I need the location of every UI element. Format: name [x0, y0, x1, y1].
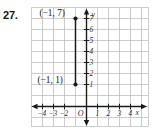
y-tick-label-4: 4 — [90, 47, 94, 56]
x-tick-label-1: 1 — [96, 109, 100, 118]
y-tick-label-2: 2 — [90, 69, 94, 78]
x-tick-label-2: 2 — [107, 109, 111, 118]
point-label-lower: (−1, 1) — [38, 75, 63, 86]
endpoint-upper — [73, 16, 77, 20]
x-tick-label-neg3: −3 — [49, 109, 58, 118]
x-axis-label: x — [135, 108, 140, 117]
coordinate-graph: 7 6 5 4 3 2 1 −4 −3 −2 1 2 3 4 O x y — [30, 6, 150, 128]
problem-number: 27. — [3, 9, 18, 21]
x-tick-label-neg2: −2 — [60, 109, 69, 118]
y-tick-label-6: 6 — [90, 25, 94, 34]
y-tick-labels: 7 6 5 4 3 2 1 — [89, 14, 94, 89]
y-axis-label: y — [91, 10, 96, 19]
endpoint-lower — [73, 82, 77, 86]
exercise-figure: 27. — [0, 0, 152, 132]
x-tick-label-neg4: −4 — [38, 109, 47, 118]
y-tick-label-1: 1 — [90, 80, 94, 89]
x-tick-label-4: 4 — [129, 109, 133, 118]
y-tick-label-3: 3 — [89, 58, 94, 67]
origin-label: O — [78, 109, 84, 118]
x-tick-label-3: 3 — [117, 109, 122, 118]
y-tick-label-5: 5 — [90, 36, 94, 45]
point-label-upper: (−1, 7) — [40, 8, 65, 19]
